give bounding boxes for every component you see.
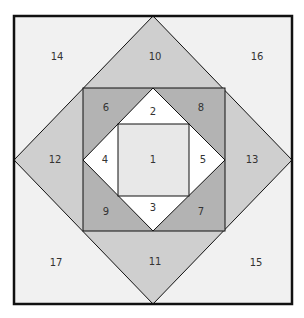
quilt-block-diagram: 1 2 3 4 5 6 7 8 9 10 11 12 13 14 15 16 1… bbox=[0, 0, 304, 318]
piece-label-13: 13 bbox=[246, 154, 259, 165]
piece-label-4: 4 bbox=[102, 154, 108, 165]
piece-label-12: 12 bbox=[49, 154, 62, 165]
piece-label-15: 15 bbox=[250, 257, 263, 268]
piece-label-11: 11 bbox=[149, 256, 162, 267]
piece-label-6: 6 bbox=[103, 102, 109, 113]
piece-label-16: 16 bbox=[251, 51, 264, 62]
piece-label-14: 14 bbox=[51, 51, 64, 62]
piece-label-9: 9 bbox=[103, 206, 109, 217]
piece-label-1: 1 bbox=[150, 154, 156, 165]
piece-label-7: 7 bbox=[198, 206, 204, 217]
piece-label-17: 17 bbox=[50, 257, 63, 268]
piece-label-2: 2 bbox=[150, 106, 156, 117]
piece-label-10: 10 bbox=[149, 51, 162, 62]
piece-label-5: 5 bbox=[200, 154, 206, 165]
piece-label-8: 8 bbox=[198, 102, 204, 113]
piece-label-3: 3 bbox=[150, 202, 156, 213]
